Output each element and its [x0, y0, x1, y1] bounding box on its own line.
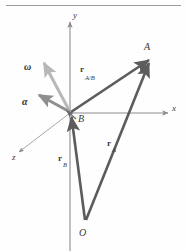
y-axis-label: y — [72, 10, 77, 20]
z-axis-label: z — [11, 152, 16, 162]
label-r-b-subscript: B — [63, 161, 67, 168]
vector-diagram: y x z A B O r A/B r A r B ω α — [0, 0, 187, 251]
label-alpha: α — [22, 96, 28, 107]
vector-r-A — [86, 63, 149, 220]
label-r-a-over-b: r A/B — [80, 64, 95, 81]
axis-group — [19, 22, 168, 251]
label-r-a-over-b-subscript: A/B — [84, 74, 95, 81]
label-r-a: r A — [107, 138, 116, 153]
label-r-b: r B — [58, 153, 67, 168]
x-axis-label: x — [171, 103, 176, 113]
figure-canvas: y x z A B O r A/B r A r B ω α — [0, 0, 187, 251]
label-r-a-over-b-symbol: r — [80, 64, 84, 74]
vector-r-B — [72, 117, 86, 220]
label-omega: ω — [24, 61, 31, 72]
vector-group — [39, 60, 149, 220]
point-label-o: O — [79, 227, 86, 238]
label-r-b-symbol: r — [58, 153, 62, 163]
label-r-a-symbol: r — [107, 138, 111, 148]
z-axis-line — [19, 113, 70, 152]
point-label-a: A — [143, 41, 151, 52]
point-label-b: B — [78, 113, 84, 124]
label-r-a-subscript: A — [111, 146, 116, 153]
